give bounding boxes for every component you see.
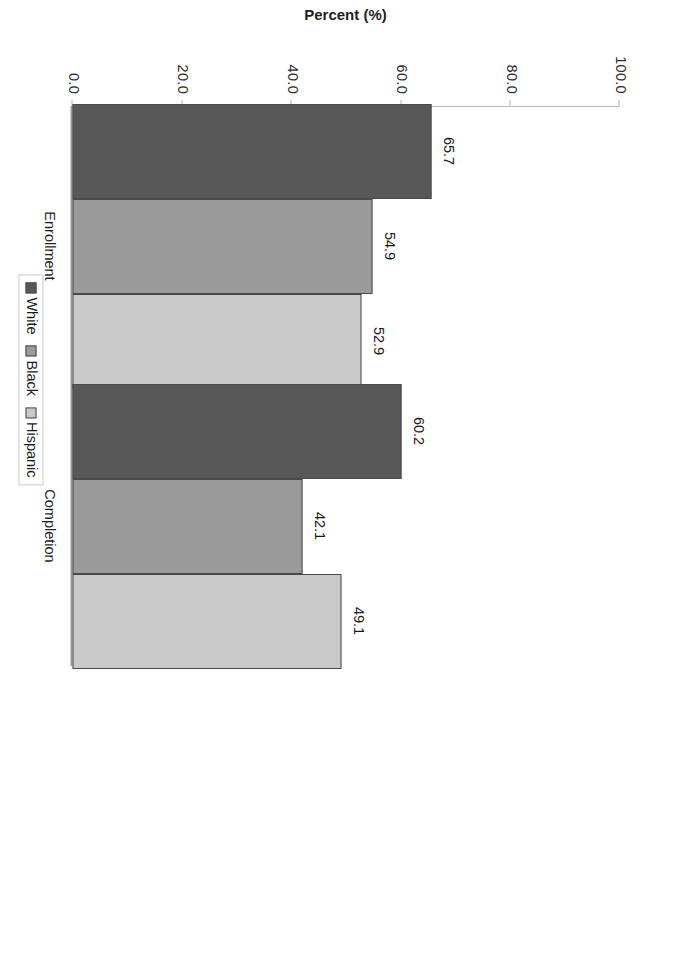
bar-value-label: 60.2 [410,417,426,445]
legend-item: Hispanic [23,407,39,478]
legend-item: White [23,282,39,334]
legend-label: White [23,297,39,334]
bar-black: 42.1 [72,479,302,574]
bar-value-label: 52.9 [370,327,386,355]
axis-tick-label: 0.0 [65,73,81,94]
bar-white: 60.2 [72,384,401,479]
y-axis-title: Percent (%) [304,6,387,23]
bar-white: 65.7 [72,104,431,199]
category-label: Enrollment [41,211,57,280]
chart-legend: WhiteBlackHispanic [18,274,43,485]
axis-tick-label: 20.0 [174,65,190,94]
axis-tick-label: 40.0 [284,65,300,94]
axis-tick-label: 80.0 [503,65,519,94]
bar-hispanic: 52.9 [72,294,361,389]
axis-tick-mark [619,100,620,106]
bar-hispanic: 49.1 [72,574,341,669]
legend-swatch-icon [26,407,37,418]
bar-value-label: 65.7 [440,137,456,165]
chart-page: 0.020.040.060.080.0100.0 Percent (%) 65.… [0,0,691,966]
axis-tick-label: 60.0 [393,65,409,94]
chart-canvas: 0.020.040.060.080.0100.0 Percent (%) 65.… [0,0,691,966]
plot-area: 0.020.040.060.080.0100.0 Percent (%) 65.… [0,0,691,966]
legend-label: Hispanic [23,422,39,478]
axis-tick-mark [509,100,510,106]
bar-value-label: 54.9 [381,232,397,260]
legend-item: Black [23,346,39,396]
bar-value-label: 49.1 [350,607,366,635]
bar-value-label: 42.1 [311,512,327,540]
category-label: Completion [41,489,57,562]
legend-swatch-icon [26,346,37,357]
axis-tick-label: 100.0 [612,56,628,94]
bar-black: 54.9 [72,199,372,294]
legend-label: Black [23,361,39,396]
legend-swatch-icon [26,282,37,293]
